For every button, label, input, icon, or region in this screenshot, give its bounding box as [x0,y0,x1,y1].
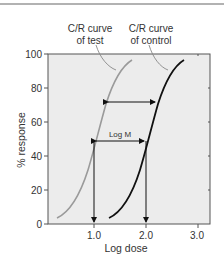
control-callout-label: of control [130,35,171,46]
x-tick-label: 2.0 [139,230,153,241]
y-tick-label: 20 [31,185,43,196]
plot-area [48,54,210,224]
x-tick-label: 3.0 [190,230,204,241]
control-callout-label: C/R curve [129,23,174,34]
y-tick-label: 40 [31,151,43,162]
y-axis-label: % response [15,112,27,168]
test-callout-label: C/R curve [68,23,113,34]
dose-response-chart: 0 20 40 60 80 100 1.0 2.0 3.0 Log dose %… [0,0,224,264]
x-tick-label: 1.0 [87,230,101,241]
log-m-label: Log M [109,130,132,139]
x-axis-label: Log dose [104,242,147,254]
y-tick-label: 100 [25,49,42,60]
y-tick-label: 0 [36,219,42,230]
y-tick-label: 80 [31,83,43,94]
y-tick-label: 60 [31,117,43,128]
test-callout-label: of test [76,35,103,46]
